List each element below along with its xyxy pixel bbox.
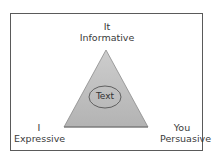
vertex-left-pronoun: I: [14, 122, 64, 133]
vertex-label-right: You Persuasive: [160, 122, 204, 144]
vertex-left-function: Expressive: [14, 133, 64, 144]
communication-triangle: [64, 50, 148, 127]
center-label: Text: [89, 91, 121, 102]
vertex-top-function: Informative: [70, 32, 144, 43]
vertex-label-top: It Informative: [70, 21, 144, 43]
vertex-right-pronoun: You: [160, 122, 204, 133]
vertex-label-left: I Expressive: [14, 122, 64, 144]
vertex-right-function: Persuasive: [160, 133, 204, 144]
vertex-top-pronoun: It: [70, 21, 144, 32]
